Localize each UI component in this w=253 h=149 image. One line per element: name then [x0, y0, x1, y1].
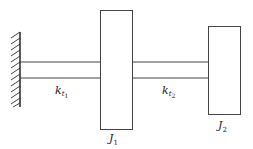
disk-1-label: J1 [107, 132, 118, 147]
disk-1 [101, 11, 133, 130]
shaft-2-label: kt2 [162, 84, 176, 99]
disk-2-label: J2 [216, 119, 227, 134]
torsion-diagram: kt1 kt2 J1 J2 [0, 0, 253, 149]
disk-2-label-sub: 2 [222, 126, 226, 134]
shaft-2 [133, 62, 208, 78]
shaft-1-label-sub-num: 1 [65, 92, 69, 99]
shaft-1-label: kt1 [55, 84, 68, 99]
wall-hatching [11, 32, 20, 107]
disk-1-label-sub: 1 [113, 139, 117, 147]
shaft-1 [20, 62, 100, 78]
shaft-2-label-sub-num: 2 [172, 92, 176, 99]
disk-2 [209, 27, 241, 115]
